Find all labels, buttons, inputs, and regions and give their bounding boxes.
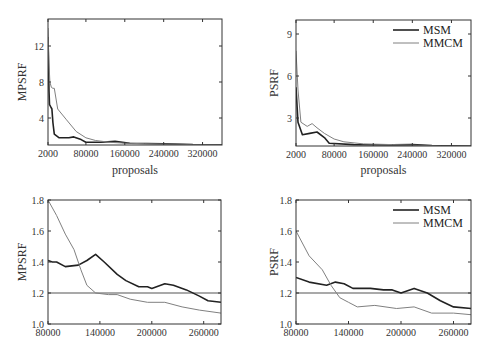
y-tick-label: 1.0 — [32, 319, 45, 330]
y-axis-label: PSRF — [267, 69, 281, 97]
legend-label-mmcm: MMCM — [423, 36, 463, 50]
y-tick-label: 3 — [287, 113, 292, 124]
x-tick-label: 160000 — [110, 148, 140, 159]
y-tick-label: 1.8 — [280, 195, 293, 206]
series-mmcm-line — [296, 51, 471, 146]
x-tick-label: 140000 — [334, 327, 364, 338]
series-mmcm-line — [48, 200, 221, 313]
series-msm-line — [48, 254, 221, 302]
panel-bottom-left: 800001400002000002600001.01.21.41.61.8MP… — [15, 195, 221, 339]
y-axis-label: MPSRF — [15, 242, 29, 281]
x-tick-label: 80000 — [322, 149, 347, 160]
y-tick-label: 1.2 — [32, 288, 45, 299]
y-tick-label: 4 — [39, 113, 44, 124]
y-tick-label: 1.6 — [280, 226, 293, 237]
y-tick-label: 12 — [34, 41, 44, 52]
y-tick-label: 1.4 — [32, 257, 45, 268]
axes-frame — [48, 200, 221, 324]
x-tick-label: 320000 — [188, 148, 218, 159]
x-tick-label: 320000 — [436, 149, 466, 160]
y-axis-label: PSRF — [267, 248, 281, 276]
y-axis-label: MPSRF — [15, 62, 29, 101]
axes-frame — [48, 19, 222, 145]
panel-top-right: 200080000160000240000320000369PSRFpropos… — [267, 20, 471, 177]
series-msm-line — [296, 87, 471, 146]
x-tick-label: 240000 — [149, 148, 179, 159]
x-tick-label: 2000 — [38, 148, 58, 159]
y-tick-label: 9 — [287, 29, 292, 40]
y-tick-label: 1.8 — [32, 195, 45, 206]
x-tick-label: 160000 — [358, 149, 388, 160]
x-tick-label: 260000 — [439, 327, 469, 338]
series-mmcm-line — [48, 28, 222, 145]
y-tick-label: 1.4 — [280, 257, 293, 268]
y-tick-label: 1.0 — [280, 319, 293, 330]
x-tick-label: 140000 — [85, 327, 115, 338]
legend-label-msm: MSM — [423, 23, 451, 37]
x-tick-label: 240000 — [397, 149, 427, 160]
panel-bottom-right: 800001400002000002600001.01.21.41.61.8PS… — [267, 195, 471, 339]
x-tick-label: 260000 — [189, 327, 219, 338]
legend: MSMMMCM — [393, 203, 463, 230]
legend: MSMMMCM — [393, 23, 463, 50]
y-tick-label: 1.2 — [280, 288, 293, 299]
x-tick-label: 200000 — [386, 327, 416, 338]
panel-top-left: 2000800001600002400003200004812MPSRFprop… — [15, 19, 222, 177]
figure: 2000800001600002400003200004812MPSRFprop… — [0, 0, 486, 354]
x-tick-label: 2000 — [286, 149, 306, 160]
x-axis-label: proposals — [361, 163, 407, 177]
y-tick-label: 6 — [287, 71, 292, 82]
x-tick-label: 200000 — [137, 327, 167, 338]
legend-label-msm: MSM — [423, 203, 451, 217]
x-tick-label: 80000 — [73, 148, 98, 159]
y-tick-label: 8 — [39, 77, 44, 88]
y-tick-label: 1.6 — [32, 226, 45, 237]
legend-label-mmcm: MMCM — [423, 216, 463, 230]
x-axis-label: proposals — [112, 163, 158, 177]
